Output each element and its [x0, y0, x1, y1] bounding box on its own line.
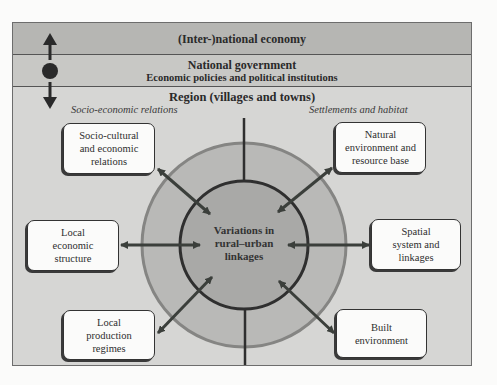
socio-economic-relations-label: Socio-economic relations	[71, 104, 178, 115]
center-label: Variations in rural–urban linkages	[194, 224, 294, 263]
level-interaction-icon	[42, 33, 58, 109]
box-local-economic-structure: Localeconomicstructure	[27, 220, 119, 271]
arrow-up-icon	[43, 33, 57, 45]
arrow-down-icon	[43, 97, 57, 109]
dot-icon	[42, 63, 58, 79]
box-built-environment: Builtenvironment	[336, 309, 427, 358]
settlements-habitat-label: Settlements and habitat	[309, 104, 408, 115]
box-spatial-system: Spatialsystem andlinkages	[371, 219, 461, 270]
box-socio-cultural: Socio-culturaland economicrelations	[63, 123, 155, 174]
box-natural-environment: Naturalenvironment andresource base	[335, 122, 426, 173]
box-local-production: Localproductionregimes	[63, 310, 155, 360]
